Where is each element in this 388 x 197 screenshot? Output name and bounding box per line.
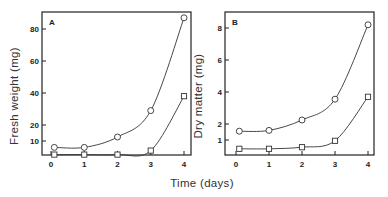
x-tick-label: 4 [366,160,371,169]
y-tick-label: 40 [30,89,39,98]
x-tick-label: 2 [300,160,305,169]
plot-frame [42,12,191,155]
x-tick-label: 2 [115,160,120,169]
y-tick-label: 20 [30,121,39,130]
y-axis-title: Fresh weight (mg) [8,47,20,145]
square-marker-icon [82,152,87,157]
square-marker-icon [237,146,242,151]
circle-marker-icon [236,128,242,134]
circle-marker-icon [81,144,87,150]
y-tick-label: 2 [218,120,223,129]
square-marker-icon [299,145,304,150]
y-tick-label: 80 [30,25,39,34]
panel-label: A [49,18,55,27]
square-marker-icon [365,94,370,99]
square-marker-icon [181,94,186,99]
y-tick-label: 1 [218,136,223,145]
panel-b-chart: B1246801234Dry matter (mg) [192,12,374,169]
x-tick-label: 0 [49,160,54,169]
y-tick-label: 8 [218,24,223,33]
x-tick-label: 0 [234,160,239,169]
panel-a-chart: A102040608001234Fresh weight (mg) [8,12,191,169]
circle-marker-icon [332,96,338,102]
square-marker-icon [148,148,153,153]
circle-marker-icon [266,127,272,133]
y-tick-label: 10 [30,137,39,146]
circle-marker-icon [148,108,154,114]
square-marker-icon [115,152,120,157]
square-marker-icon [266,146,271,151]
circle-marker-icon [365,22,371,28]
square-marker-icon [332,138,337,143]
x-tick-label: 3 [149,160,154,169]
x-tick-label: 4 [182,160,187,169]
figure: A102040608001234Fresh weight (mg) B12468… [0,0,388,197]
plot-frame [225,12,374,155]
series-line-circles [54,18,184,148]
y-axis-title: Dry matter (mg) [192,54,204,139]
panel-label: B [232,18,238,27]
circle-marker-icon [115,134,121,140]
x-tick-label: 3 [333,160,338,169]
y-tick-label: 60 [30,57,39,66]
series-line-squares [54,96,184,156]
circle-marker-icon [299,117,305,123]
x-axis-title: Time (days) [170,177,234,189]
circle-marker-icon [181,15,187,21]
circle-marker-icon [51,144,57,150]
y-tick-label: 6 [218,56,223,65]
square-marker-icon [52,152,57,157]
y-tick-label: 4 [218,88,223,97]
series-line-circles [239,25,368,132]
x-tick-label: 1 [82,160,87,169]
x-tick-label: 1 [267,160,272,169]
